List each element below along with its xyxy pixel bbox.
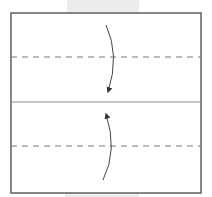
origami-diagram [0,0,212,197]
paper-square [11,13,201,193]
